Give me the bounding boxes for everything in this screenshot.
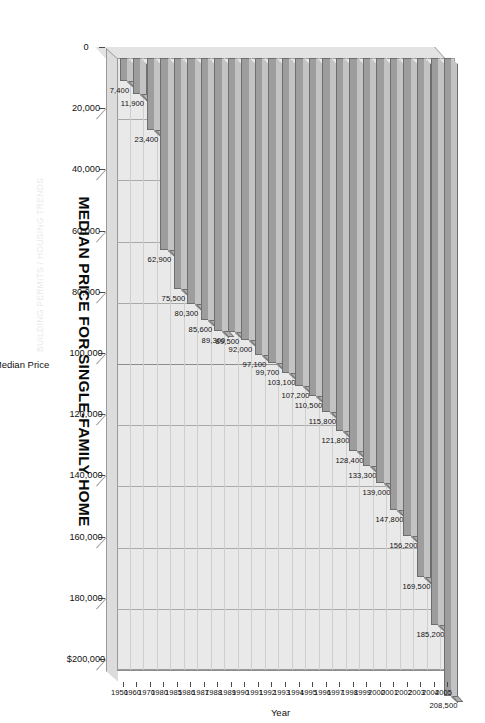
category-axis-tick <box>299 682 300 687</box>
category-axis-tick <box>258 682 259 687</box>
category-axis-tick <box>204 682 205 687</box>
plot-area: 7,40011,90023,40062,90075,50080,30085,60… <box>117 58 455 670</box>
value-axis-tick-label: 40,000 <box>72 164 100 174</box>
bar-value-label: 156,200 <box>389 540 417 549</box>
bar-value-label: 147,800 <box>376 515 404 524</box>
category-axis-tick <box>353 682 354 687</box>
bar-row[interactable] <box>133 58 141 670</box>
bar-row[interactable] <box>282 58 290 670</box>
bar-value-label: 62,900 <box>148 255 172 264</box>
bar-row[interactable] <box>404 58 412 670</box>
category-axis-tick <box>339 682 340 687</box>
row-separator <box>143 58 144 670</box>
gridline <box>117 670 455 671</box>
category-axis-tick <box>407 682 408 687</box>
category-axis-tick <box>420 682 421 687</box>
category-axis-title: Year <box>271 707 290 718</box>
bar-row[interactable] <box>390 58 398 670</box>
category-axis-tick <box>447 682 448 687</box>
bar-value-label: 115,800 <box>308 417 336 426</box>
category-axis-tick <box>177 682 178 687</box>
bar-row[interactable] <box>147 58 155 670</box>
chart-canvas: BUILDING PERMITS / HOUSING TRENDS MEDIAN… <box>0 0 485 723</box>
bar-row[interactable] <box>120 58 128 670</box>
bar-row[interactable] <box>268 58 276 670</box>
value-axis-tick-label: 180,000 <box>69 593 102 603</box>
header-note: BUILDING PERMITS / HOUSING TRENDS <box>35 52 45 352</box>
bar-row[interactable] <box>201 58 209 670</box>
value-axis-tick-label: 100,000 <box>69 348 102 358</box>
category-axis-tick <box>231 682 232 687</box>
bar-value-label: 75,500 <box>161 294 185 303</box>
bar-row[interactable] <box>349 58 357 670</box>
bar-row[interactable] <box>174 58 182 670</box>
bar-value-label: 110,500 <box>295 401 323 410</box>
category-axis-tick <box>380 682 381 687</box>
bar-row[interactable] <box>417 58 425 670</box>
bar-row[interactable] <box>160 58 168 670</box>
bar-value-label: 92,000 <box>229 344 253 353</box>
row-separator <box>157 58 158 670</box>
category-axis-tick <box>217 682 218 687</box>
category-axis-tick <box>271 682 272 687</box>
category-axis-tick <box>312 682 313 687</box>
category-axis-tick <box>244 682 245 687</box>
bar-row[interactable] <box>444 58 452 670</box>
bar-row[interactable] <box>431 58 439 670</box>
value-axis-tick-label: 120,000 <box>69 409 102 419</box>
category-axis-label: 2005 <box>435 688 452 697</box>
bar-row[interactable] <box>363 58 371 670</box>
value-axis-tick-label: $200,000 <box>67 654 105 664</box>
bar-value-label: 23,400 <box>134 134 158 143</box>
bar-value-label: 85,600 <box>188 324 212 333</box>
bar-value-label: 128,400 <box>335 455 363 464</box>
category-axis-tick <box>285 682 286 687</box>
bar-value-label: 185,200 <box>416 629 444 638</box>
rotated-chart-wrapper: BUILDING PERMITS / HOUSING TRENDS MEDIAN… <box>0 0 485 723</box>
category-axis-tick <box>150 682 151 687</box>
value-axis-tick-label: 0 <box>83 42 88 52</box>
value-axis-tick-label: 60,000 <box>72 226 100 236</box>
value-axis-tick-label: 80,000 <box>72 287 100 297</box>
value-axis-tick-label: 160,000 <box>69 532 102 542</box>
bar-row[interactable] <box>214 58 222 670</box>
category-axis-tick <box>366 682 367 687</box>
category-axis-tick <box>136 682 137 687</box>
bar-value-label: 133,300 <box>349 470 377 479</box>
category-axis-tick <box>190 682 191 687</box>
bar-value-label: 139,000 <box>362 488 390 497</box>
plot-left-wall <box>95 47 445 58</box>
bar-row[interactable] <box>322 58 330 670</box>
category-axis-tick <box>393 682 394 687</box>
bar-row[interactable] <box>295 58 303 670</box>
category-axis-tick <box>123 682 124 687</box>
category-axis-tick <box>434 682 435 687</box>
bar-value-label: 121,800 <box>322 435 350 444</box>
bar-value-label: 107,200 <box>281 391 309 400</box>
bar-value-label: 80,300 <box>175 308 199 317</box>
bar-row[interactable] <box>228 58 236 670</box>
bar-value-label: 208,500 <box>430 701 458 710</box>
value-axis-title: Median Price <box>0 359 49 370</box>
category-axis-tick <box>163 682 164 687</box>
category-axis-tick <box>326 682 327 687</box>
value-axis-tick <box>99 47 105 48</box>
bar-row[interactable] <box>376 58 384 670</box>
bar-value-label: 99,700 <box>256 368 280 377</box>
bar-value-label: 11,900 <box>121 99 144 108</box>
bar-value-label: 7,400 <box>110 85 130 94</box>
value-axis-tick-label: 20,000 <box>72 103 100 113</box>
bar-top-face <box>451 58 458 703</box>
bar-row[interactable] <box>187 58 195 670</box>
bar-value-label: 103,100 <box>267 378 295 387</box>
bar-row[interactable] <box>309 58 317 670</box>
bar-value-label: 169,500 <box>403 581 431 590</box>
row-separator <box>130 58 131 670</box>
value-axis-tick-label: 140,000 <box>69 470 102 480</box>
bar-row[interactable] <box>336 58 344 670</box>
